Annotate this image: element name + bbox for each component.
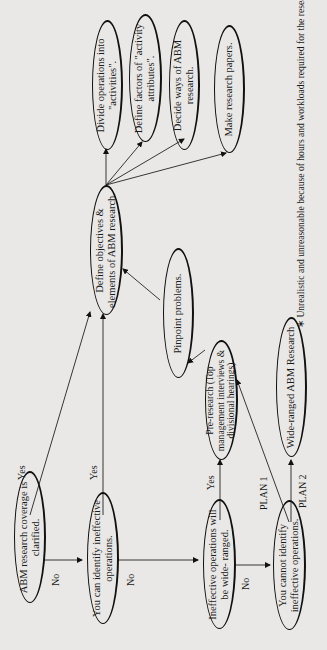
- node-text: Pinpoint problems.: [172, 274, 184, 354]
- node-text: Define factors of "activity attributes".: [133, 20, 157, 137]
- node-text: Divide operations into "activities".: [95, 26, 119, 145]
- node-divide-operations: Divide operations into "activities".: [92, 20, 123, 150]
- node-text: You can identify ineffective operations.: [91, 498, 115, 619]
- node-text: Make research papers.: [223, 42, 235, 136]
- node-define-factors: Define factors of "activity attributes".: [129, 14, 162, 142]
- edge-label-plan-1: PLAN 1: [258, 476, 269, 510]
- footnote: ∗ Unrealistic and unreasonable because o…: [295, 0, 306, 328]
- edge-label-no: No: [50, 574, 61, 586]
- node-wide-abm-research: Wide-ranged ABM Research: [276, 317, 307, 457]
- edge-label-yes: Yes: [88, 465, 99, 480]
- node-text: Decide ways of ABM research.: [172, 26, 196, 145]
- edge-label-plan-2: PLAN 2: [297, 474, 308, 508]
- node-text: ABM research coverage is clarified.: [18, 477, 42, 598]
- node-coverage-clarified: ABM research coverage is clarified.: [14, 471, 46, 603]
- node-define-objectives: Define objectives & elements of ABM rese…: [90, 185, 123, 315]
- node-cannot-identify: You cannot identify ineffective operatio…: [273, 500, 306, 630]
- edge-label-no: No: [240, 578, 251, 590]
- edge-label-yes: Yes: [16, 465, 27, 480]
- node-text: Define objectives & elements of ABM rese…: [94, 191, 118, 310]
- flowchart: ABM research coverage is clarified. You …: [0, 0, 327, 650]
- node-pinpoint-problems: Pinpoint problems.: [163, 248, 194, 378]
- edge-label-no: No: [125, 574, 136, 586]
- node-text: You cannot identify ineffective operatio…: [277, 506, 301, 625]
- node-pre-research: Pre-research (Top management interviews …: [205, 340, 238, 460]
- node-decide-ways: Decide ways of ABM research.: [169, 20, 200, 150]
- node-text: Wide-ranged ABM Research: [285, 327, 297, 448]
- node-can-identify: You can identify ineffective operations.: [87, 492, 119, 624]
- node-text: Pre-research (Top management interviews …: [205, 346, 237, 455]
- node-wide-ranged: Ineffective operations will be wide- ran…: [203, 499, 236, 629]
- node-text: Ineffective operations will be wide- ran…: [207, 505, 231, 624]
- node-make-papers: Make research papers.: [214, 25, 245, 153]
- edge-label-yes: Yes: [205, 475, 216, 490]
